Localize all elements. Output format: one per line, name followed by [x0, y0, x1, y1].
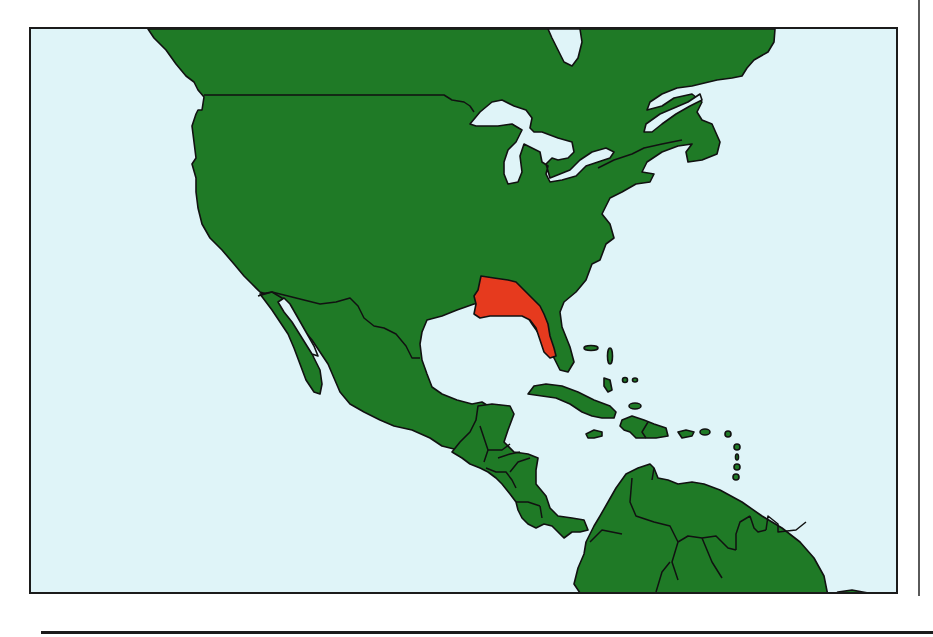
island: [734, 464, 740, 470]
island: [733, 474, 739, 480]
island: [736, 454, 739, 460]
page-bottom-rule: [41, 631, 933, 634]
bahamas-island: [623, 378, 628, 383]
map-canvas: [31, 29, 898, 594]
bahamas-island: [584, 346, 598, 351]
island: [725, 431, 731, 437]
puerto-rico: [678, 430, 694, 438]
island: [700, 429, 710, 435]
bahamas-island: [629, 403, 641, 409]
island: [734, 444, 740, 450]
page-margin-rule: [918, 0, 920, 596]
bahamas-island: [633, 378, 638, 382]
bahamas-island: [608, 348, 613, 364]
map-frame: [29, 27, 898, 594]
